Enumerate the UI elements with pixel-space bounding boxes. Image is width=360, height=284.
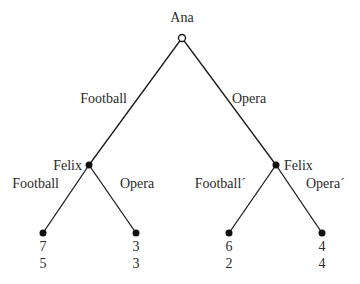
payoff-4-ana: 4 (319, 239, 326, 254)
payoff-3-felix: 2 (226, 256, 233, 271)
terminal-node-2 (133, 230, 140, 237)
player-label-felix-left: Felix (53, 158, 82, 173)
payoff-1-felix: 5 (40, 256, 47, 271)
player-label-ana: Ana (170, 10, 194, 25)
action-label-felix-left-football: Football (12, 176, 59, 191)
payoff-2-ana: 3 (133, 239, 140, 254)
terminal-node-1 (40, 230, 47, 237)
action-label-felix-right-football: Football´ (195, 176, 246, 191)
game-tree: Ana Felix Felix Football Opera Football … (0, 0, 360, 284)
action-label-ana-football: Football (80, 91, 127, 106)
payoff-2-felix: 3 (133, 256, 140, 271)
payoff-3-ana: 6 (226, 239, 233, 254)
terminal-node-4 (319, 230, 326, 237)
action-label-felix-right-opera: Opera´ (306, 176, 345, 191)
action-label-ana-opera: Opera (232, 91, 267, 106)
action-label-felix-left-opera: Opera (120, 176, 155, 191)
player-label-felix-right: Felix (284, 158, 313, 173)
decision-node-felix-left (86, 162, 93, 169)
payoff-4-felix: 4 (319, 256, 326, 271)
decision-node-felix-right (273, 162, 280, 169)
root-node-ana (179, 35, 186, 42)
terminal-node-3 (226, 230, 233, 237)
payoff-1-ana: 7 (40, 239, 47, 254)
